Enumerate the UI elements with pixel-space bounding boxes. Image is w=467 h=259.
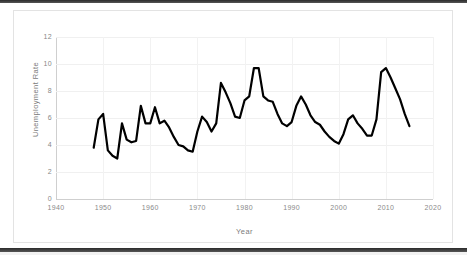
bottom-edge-band-light (0, 252, 467, 255)
screenshot-canvas: 024681012 194019501960197019801990200020… (0, 0, 467, 259)
top-edge-band (0, 0, 467, 3)
x-tick-label-2010: 2010 (369, 204, 403, 211)
y-tick-label-8: 8 (48, 87, 52, 94)
line-series-unemployment-rate (56, 37, 433, 199)
y-tick-label-2: 2 (48, 168, 52, 175)
x-tick-label-1940: 1940 (39, 204, 73, 211)
x-axis-title: Year (56, 227, 433, 236)
y-tick-label-0: 0 (48, 195, 52, 202)
x-axis-line (56, 199, 433, 200)
chart-container: 024681012 194019501960197019801990200020… (13, 10, 453, 243)
x-tick-label-2020: 2020 (416, 204, 450, 211)
y-tick-label-12: 12 (44, 33, 52, 40)
y-tick-label-6: 6 (48, 114, 52, 121)
x-tick-label-1980: 1980 (228, 204, 262, 211)
x-tick-label-2000: 2000 (322, 204, 356, 211)
x-tick-label-1950: 1950 (86, 204, 120, 211)
x-axis-tick-labels: 194019501960197019801990200020102020 (56, 204, 433, 216)
y-axis-title: Unemployment Rate (31, 45, 40, 155)
gridline-x-2020 (433, 37, 434, 199)
y-tick-label-10: 10 (44, 60, 52, 67)
x-tick-label-1970: 1970 (180, 204, 214, 211)
x-tick-label-1960: 1960 (133, 204, 167, 211)
y-tick-label-4: 4 (48, 141, 52, 148)
x-tick-label-1990: 1990 (275, 204, 309, 211)
plot-area (56, 37, 433, 199)
